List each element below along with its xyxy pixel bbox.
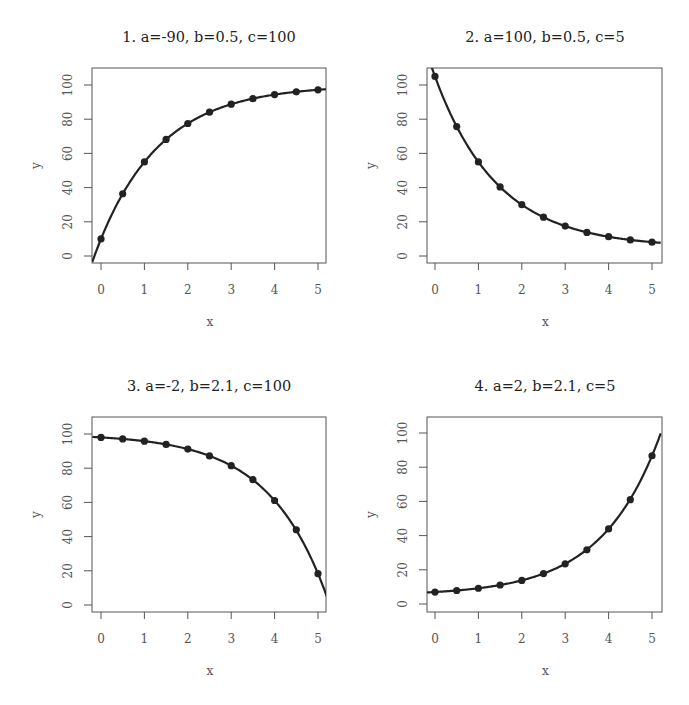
data-point [540, 214, 547, 221]
panel-3: 3. a=-2, b=2.1, c=100 012345 02040608010… [29, 378, 327, 678]
y-tick-label: 100 [396, 422, 410, 445]
data-point [431, 73, 438, 80]
x-tick-label: 2 [184, 632, 192, 646]
x-axis: 012345 [97, 263, 322, 297]
data-point [648, 452, 655, 459]
x-tick-label: 4 [605, 283, 613, 297]
x-tick-label: 0 [97, 283, 105, 297]
data-point [605, 525, 612, 532]
data-point [119, 190, 126, 197]
x-tick-label: 1 [141, 632, 149, 646]
data-point [228, 101, 235, 108]
y-tick-label: 60 [396, 146, 410, 161]
data-point [119, 435, 126, 442]
y-tick-label: 20 [396, 214, 410, 229]
plot-box [427, 417, 662, 612]
x-axis-label: x [207, 315, 214, 329]
plot-box [92, 417, 326, 612]
y-axis-label: y [364, 162, 378, 170]
y-tick-label: 0 [61, 601, 75, 609]
data-point [453, 587, 460, 594]
y-tick-label: 20 [61, 563, 75, 578]
plot-content [92, 434, 326, 596]
data-point [562, 222, 569, 229]
data-point [163, 441, 170, 448]
y-tick-label: 40 [61, 180, 75, 195]
plot-content [426, 51, 660, 246]
y-tick-label: 20 [61, 214, 75, 229]
data-point [97, 434, 104, 441]
x-tick-label: 4 [271, 632, 279, 646]
x-tick-label: 5 [314, 632, 322, 646]
y-tick-label: 100 [61, 74, 75, 97]
x-tick-label: 3 [227, 283, 235, 297]
x-tick-label: 0 [431, 632, 439, 646]
y-tick-label: 40 [396, 528, 410, 543]
data-point [228, 462, 235, 469]
y-tick-label: 80 [61, 112, 75, 127]
x-tick-label: 1 [475, 283, 483, 297]
y-tick-label: 60 [61, 495, 75, 510]
data-point [97, 235, 104, 242]
data-point [249, 476, 256, 483]
data-point [627, 496, 634, 503]
panel-title: 3. a=-2, b=2.1, c=100 [127, 378, 291, 394]
data-point [648, 239, 655, 246]
y-tick-label: 80 [61, 461, 75, 476]
x-tick-label: 2 [518, 632, 526, 646]
y-tick-label: 60 [396, 494, 410, 509]
data-point [497, 183, 504, 190]
x-tick-label: 2 [184, 283, 192, 297]
data-point [518, 577, 525, 584]
data-point [453, 123, 460, 130]
data-point [249, 95, 256, 102]
data-point [605, 233, 612, 240]
x-tick-label: 1 [141, 283, 149, 297]
data-point [497, 581, 504, 588]
data-point [293, 88, 300, 95]
data-point [141, 438, 148, 445]
data-point [518, 201, 525, 208]
panel-2: 2. a=100, b=0.5, c=5 012345 020406080100… [364, 29, 662, 329]
y-tick-label: 100 [396, 74, 410, 97]
panel-1: 1. a=-90, b=0.5, c=100 012345 0204060801… [29, 29, 327, 329]
panel-title: 1. a=-90, b=0.5, c=100 [122, 29, 295, 45]
x-tick-label: 5 [648, 632, 656, 646]
data-point [184, 445, 191, 452]
plot-content [426, 433, 660, 595]
y-axis: 020406080100 [396, 74, 427, 260]
y-tick-label: 0 [396, 252, 410, 260]
y-axis: 020406080100 [396, 422, 427, 608]
x-tick-label: 4 [605, 632, 613, 646]
x-tick-label: 3 [227, 632, 235, 646]
data-point [271, 91, 278, 98]
data-point [314, 86, 321, 93]
plot-box [92, 68, 326, 263]
x-axis: 012345 [431, 612, 656, 646]
data-point [583, 229, 590, 236]
x-tick-label: 3 [561, 632, 569, 646]
data-point [562, 560, 569, 567]
y-tick-label: 80 [396, 460, 410, 475]
plot-box [427, 68, 662, 263]
x-tick-label: 5 [648, 283, 656, 297]
panel-4: 4. a=2, b=2.1, c=5 012345 020406080100 x… [364, 378, 662, 678]
data-point [475, 158, 482, 165]
figure: 1. a=-90, b=0.5, c=100 012345 0204060801… [0, 0, 689, 705]
x-tick-label: 5 [314, 283, 322, 297]
data-point [540, 570, 547, 577]
y-tick-label: 40 [396, 180, 410, 195]
data-point [271, 497, 278, 504]
panel-title: 4. a=2, b=2.1, c=5 [475, 378, 616, 394]
y-axis: 020406080100 [61, 423, 92, 609]
y-axis-label: y [364, 511, 378, 519]
fitted-curve [92, 437, 326, 596]
y-tick-label: 0 [396, 600, 410, 608]
x-tick-label: 4 [271, 283, 279, 297]
data-point [314, 570, 321, 577]
data-point [293, 526, 300, 533]
y-tick-label: 20 [396, 562, 410, 577]
x-tick-label: 1 [475, 632, 483, 646]
x-tick-label: 0 [97, 632, 105, 646]
x-axis: 012345 [97, 612, 322, 646]
